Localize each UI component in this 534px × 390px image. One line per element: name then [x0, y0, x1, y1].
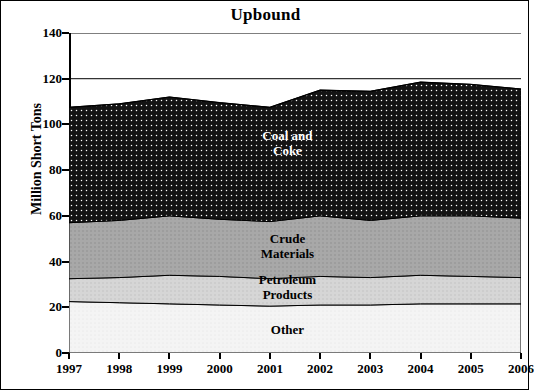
- x-tick-label: 2001: [257, 361, 283, 377]
- x-tick-label: 2002: [307, 361, 333, 377]
- x-tick-mark: [168, 353, 170, 359]
- x-tick-label: 1999: [156, 361, 182, 377]
- y-tick-mark: [62, 215, 69, 217]
- y-tick-label: 40: [49, 254, 62, 270]
- x-tick-label: 1997: [56, 361, 82, 377]
- y-tick-label: 140: [43, 25, 63, 41]
- y-tick-label: 60: [49, 208, 62, 224]
- y-tick-mark: [62, 32, 69, 34]
- x-tick-mark: [319, 353, 321, 359]
- x-tick-label: 2003: [357, 361, 383, 377]
- x-tick-mark: [369, 353, 371, 359]
- x-tick-mark: [470, 353, 472, 359]
- y-tick-mark: [62, 261, 69, 263]
- area-series: [69, 82, 521, 223]
- x-tick-label: 2005: [458, 361, 484, 377]
- area-series: [69, 302, 521, 353]
- y-tick-mark: [62, 123, 69, 125]
- x-tick-mark: [269, 353, 271, 359]
- y-tick-label: 20: [49, 299, 62, 315]
- y-tick-mark: [62, 78, 69, 80]
- x-tick-mark: [520, 353, 522, 359]
- y-tick-label: 80: [49, 162, 62, 178]
- x-tick-label: 2004: [408, 361, 434, 377]
- x-tick-mark: [68, 353, 70, 359]
- area-series: [69, 275, 521, 306]
- x-tick-mark: [420, 353, 422, 359]
- area-series: [69, 216, 521, 279]
- area-stack: [69, 33, 521, 353]
- chart-title: Upbound: [1, 5, 530, 25]
- x-tick-mark: [118, 353, 120, 359]
- x-tick-mark: [219, 353, 221, 359]
- plot-region: 020406080100120140 199719981999200020012…: [69, 33, 521, 353]
- y-tick-mark: [62, 306, 69, 308]
- x-tick-label: 2006: [508, 361, 534, 377]
- x-tick-label: 1998: [106, 361, 132, 377]
- y-tick-mark: [62, 169, 69, 171]
- y-axis-label: Million Short Tons: [29, 59, 45, 259]
- y-tick-label: 100: [43, 116, 63, 132]
- y-tick-label: 120: [43, 71, 63, 87]
- x-tick-label: 2000: [207, 361, 233, 377]
